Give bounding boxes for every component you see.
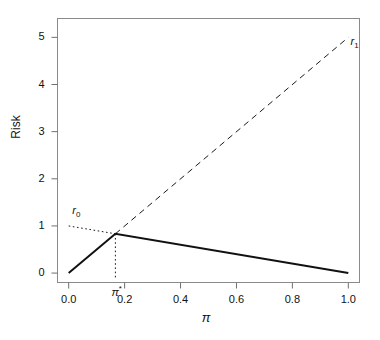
- x-axis-title: π: [176, 310, 236, 325]
- y-tick-label: 0: [19, 266, 45, 278]
- data-curves: [69, 37, 349, 273]
- curve-r1: [115, 37, 348, 233]
- risk-chart-figure: Risk π 012345 0.00.20.40.60.81.0 r0r1π*: [0, 0, 380, 340]
- x-tick-label: 0.0: [51, 293, 87, 305]
- y-axis-tick-marks: [52, 37, 58, 273]
- annotation-label-pi-star: π*: [111, 284, 122, 298]
- curve-bayes-risk-envelope: [69, 234, 349, 273]
- plot-border: [58, 19, 360, 283]
- curve-label-r1: r1: [351, 35, 359, 50]
- y-tick-label: 2: [19, 172, 45, 184]
- y-tick-label: 3: [19, 125, 45, 137]
- plot-canvas: [0, 0, 380, 340]
- x-tick-label: 0.6: [218, 293, 254, 305]
- curve-label-r0: r0: [72, 204, 80, 219]
- y-tick-label: 4: [19, 78, 45, 90]
- x-tick-label: 0.8: [274, 293, 310, 305]
- curve-r0: [69, 226, 116, 234]
- y-tick-label: 1: [19, 219, 45, 231]
- x-tick-label: 0.4: [163, 293, 199, 305]
- y-tick-label: 5: [19, 30, 45, 42]
- x-tick-label: 1.0: [330, 293, 366, 305]
